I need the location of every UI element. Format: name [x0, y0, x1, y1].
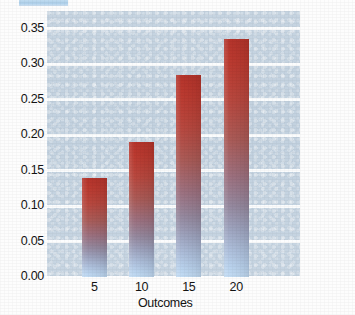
gridline — [47, 63, 300, 66]
y-axis-tick-label: 0.20 — [21, 127, 44, 141]
x-axis-tick-label: 5 — [91, 280, 98, 294]
y-axis-tick-labels: 0.000.050.100.150.200.250.300.35 — [0, 0, 44, 315]
y-axis-tick-label: 0.05 — [21, 234, 44, 248]
x-axis-tick-label: 20 — [230, 280, 243, 294]
y-axis-tick-label: 0.00 — [21, 269, 44, 283]
gridline — [47, 169, 300, 172]
bar — [176, 75, 201, 277]
x-axis-title: Outcomes — [138, 296, 193, 310]
gridline — [47, 98, 300, 101]
scanned-page: Probabilties 0.000.050.100.150.200.250.3… — [0, 0, 355, 315]
y-axis-tick-label: 0.15 — [21, 163, 44, 177]
y-axis-tick-label: 0.25 — [21, 92, 44, 106]
bar — [82, 178, 107, 277]
gridline — [47, 27, 300, 30]
y-axis-tick-label: 0.10 — [21, 198, 44, 212]
gridline — [47, 134, 300, 137]
x-axis-tick-label: 15 — [182, 280, 195, 294]
y-axis-tick-label: 0.30 — [21, 56, 44, 70]
bar — [224, 39, 249, 277]
x-axis-tick-label: 10 — [135, 280, 148, 294]
bar — [129, 142, 154, 277]
plot-area — [47, 11, 300, 277]
y-axis-tick-label: 0.35 — [21, 21, 44, 35]
